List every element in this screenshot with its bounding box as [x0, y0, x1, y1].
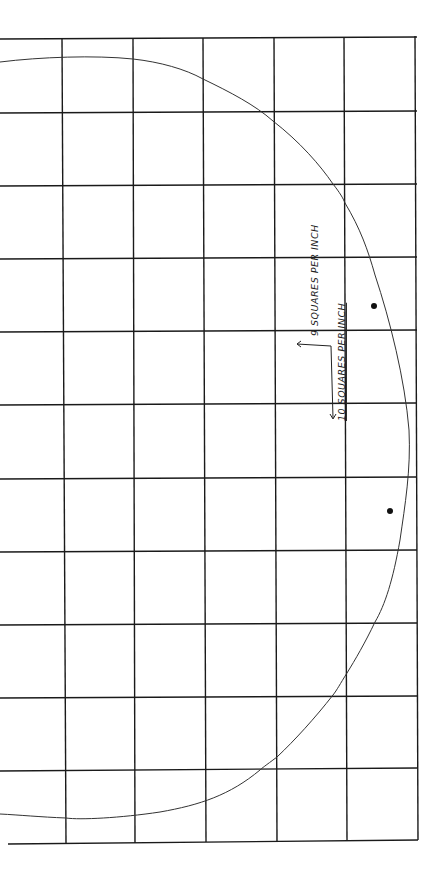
- grid-row-line: [0, 477, 417, 479]
- label-9-squares-per-inch: 9 SQUARES PER INCH: [309, 224, 320, 336]
- pattern-diagram: 9 SQUARES PER INCH 10 SQUARES PER INCH: [0, 0, 439, 872]
- marker-dot-lower: [387, 508, 393, 514]
- grid-col-line: [133, 38, 135, 843]
- grid-row-line: [0, 768, 417, 771]
- grid-col-line: [203, 38, 206, 842]
- grid-row-line: [0, 330, 417, 332]
- grid-row-line: [0, 550, 417, 552]
- grid-row-line: [8, 840, 418, 844]
- grid-col-line: [344, 37, 347, 840]
- grid-row-line: [0, 696, 417, 698]
- annotation-arrow: [297, 341, 336, 419]
- grid-row-line: [0, 623, 417, 625]
- grid-row-line: [0, 403, 417, 405]
- grid-col-line: [415, 36, 418, 840]
- label-10-squares-per-inch: 10 SQUARES PER INCH: [336, 303, 347, 421]
- marker-dot-upper: [371, 303, 377, 309]
- grid: [0, 36, 418, 844]
- grid-col-line: [62, 38, 66, 844]
- grid-col-line: [274, 37, 277, 841]
